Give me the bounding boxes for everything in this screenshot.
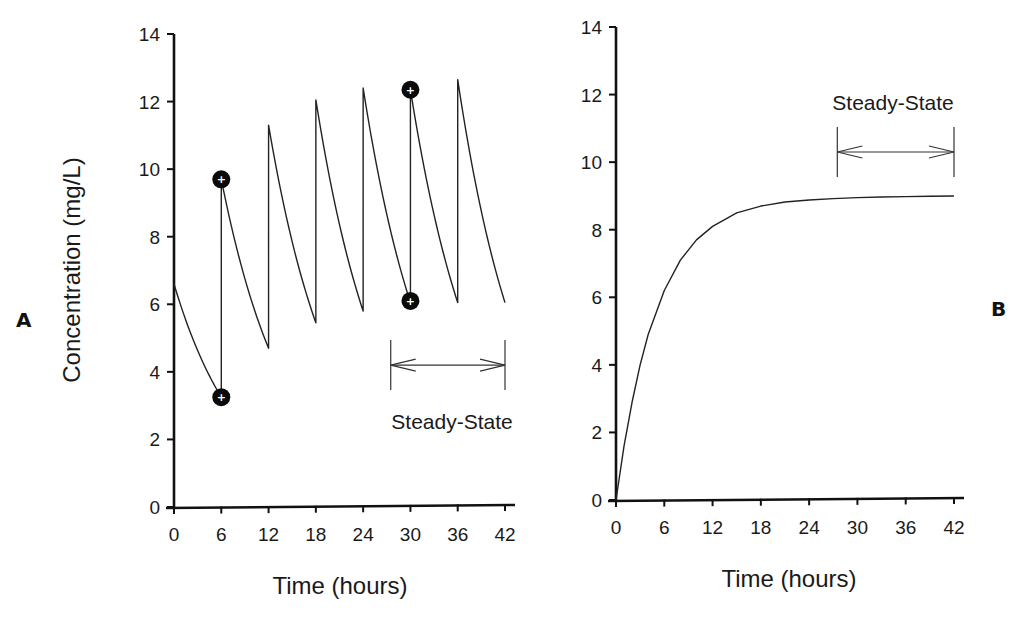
- y-tick-label: 10: [139, 159, 160, 180]
- x-tick-label: 42: [494, 524, 515, 545]
- marker-plus-icon: +: [406, 295, 415, 308]
- x-tick-label: 6: [216, 524, 227, 545]
- chart-panel-b: 0246810121406121824303642Time (hours)BSt…: [581, 17, 1006, 592]
- y-tick-label: 8: [591, 220, 602, 241]
- data-line: [174, 80, 505, 398]
- x-tick-label: 12: [702, 517, 723, 538]
- steady-state-range-arrow: [837, 127, 954, 177]
- panel-label: A: [16, 308, 32, 332]
- steady-state-label: Steady-State: [391, 410, 512, 433]
- y-tick-label: 0: [591, 490, 602, 511]
- x-axis-line: [608, 498, 964, 501]
- x-axis-title: Time (hours): [272, 572, 407, 599]
- x-tick-label: 12: [258, 524, 279, 545]
- y-tick-label: 6: [591, 287, 602, 308]
- x-tick-label: 24: [353, 524, 375, 545]
- x-tick-label: 24: [799, 517, 821, 538]
- marker-plus-icon: +: [217, 173, 226, 186]
- y-tick-label: 12: [581, 85, 602, 106]
- x-tick-label: 18: [750, 517, 771, 538]
- figure-canvas: 0246810121406121824303642Time (hours)Con…: [0, 0, 1012, 617]
- y-tick-label: 14: [139, 24, 161, 45]
- x-axis-line: [166, 505, 515, 508]
- x-tick-label: 18: [305, 524, 326, 545]
- x-tick-label: 0: [169, 524, 180, 545]
- x-tick-label: 30: [847, 517, 868, 538]
- y-tick-label: 12: [139, 92, 160, 113]
- x-tick-label: 0: [611, 517, 622, 538]
- panel-label: B: [991, 297, 1006, 321]
- y-tick-label: 4: [149, 362, 160, 383]
- x-tick-label: 36: [447, 524, 468, 545]
- y-tick-label: 0: [149, 497, 160, 518]
- x-axis-title: Time (hours): [721, 565, 856, 592]
- y-tick-label: 4: [591, 355, 602, 376]
- y-tick-label: 14: [581, 17, 603, 38]
- y-tick-label: 2: [591, 422, 602, 443]
- steady-state-range-arrow: [391, 340, 505, 390]
- data-line: [616, 196, 954, 500]
- chart-panel-a: 0246810121406121824303642Time (hours)Con…: [16, 24, 516, 599]
- y-tick-label: 2: [149, 429, 160, 450]
- steady-state-label: Steady-State: [832, 91, 953, 114]
- x-tick-label: 36: [895, 517, 916, 538]
- x-tick-label: 6: [659, 517, 670, 538]
- x-tick-label: 42: [943, 517, 964, 538]
- y-tick-label: 8: [149, 227, 160, 248]
- marker-plus-icon: +: [217, 391, 226, 404]
- marker-plus-icon: +: [406, 84, 415, 97]
- y-axis-title: Concentration (mg/L): [58, 157, 85, 382]
- y-tick-label: 6: [149, 294, 160, 315]
- y-tick-label: 10: [581, 152, 602, 173]
- x-tick-label: 30: [400, 524, 421, 545]
